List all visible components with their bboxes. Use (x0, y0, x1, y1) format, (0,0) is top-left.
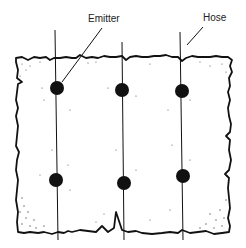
emitter-dot (176, 169, 190, 183)
emitter-dot (50, 81, 64, 95)
hose-leader-line (187, 27, 203, 45)
emitter-label: Emitter (88, 14, 120, 24)
emitter-dot (175, 84, 189, 98)
hose-label: Hose (203, 13, 226, 23)
emitter-dot (115, 83, 129, 97)
diagram-canvas (0, 0, 246, 248)
emitter-dot (117, 176, 131, 190)
emitter-dot (49, 173, 63, 187)
